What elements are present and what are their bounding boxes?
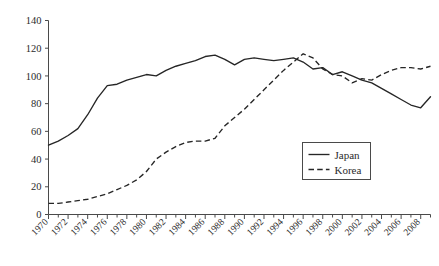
x-axis-tick-label: 1994	[264, 217, 285, 238]
x-axis-tick-label: 1998	[304, 217, 325, 238]
x-axis-tick-label: 1978	[108, 217, 129, 238]
x-axis-tick-label: 1996	[284, 217, 305, 238]
x-axis: 1970197219741976197819801982198419861988…	[29, 215, 430, 238]
x-axis-tick-label: 1970	[29, 217, 50, 238]
y-axis-tick-label: 20	[31, 181, 42, 192]
y-axis-tick-label: 40	[31, 154, 42, 165]
line-chart: 020406080100120140 197019721974197619781…	[0, 0, 439, 266]
legend-label-japan: Japan	[335, 149, 361, 161]
x-axis-tick-label: 1992	[245, 217, 266, 238]
x-axis-tick-label: 1988	[206, 217, 227, 238]
y-axis-tick-label: 120	[26, 43, 42, 54]
x-axis-tick-label: 1984	[167, 217, 188, 238]
x-axis-tick-label: 1972	[49, 217, 70, 238]
x-axis-tick-label: 2008	[402, 217, 423, 238]
y-axis-tick-label: 140	[26, 15, 42, 26]
series-line-japan	[49, 55, 431, 145]
chart-legend: JapanKorea	[303, 143, 371, 180]
x-axis-tick-label: 2006	[382, 217, 403, 238]
x-axis-tick-label: 2004	[362, 217, 383, 238]
x-axis-tick-label: 1982	[147, 217, 168, 238]
x-axis-tick-label: 1976	[88, 217, 109, 238]
y-axis-tick-label: 100	[26, 71, 42, 82]
x-axis-tick-label: 1986	[186, 217, 207, 238]
x-axis-tick-label: 2002	[343, 217, 364, 238]
y-axis: 020406080100120140	[26, 15, 49, 220]
series-line-korea	[49, 54, 431, 204]
series-lines	[49, 54, 431, 204]
x-axis-tick-label: 1980	[127, 217, 148, 238]
chart-figure: 020406080100120140 197019721974197619781…	[0, 0, 439, 266]
y-axis-tick-label: 80	[31, 98, 42, 109]
x-axis-tick-label: 1974	[69, 217, 90, 238]
x-axis-tick-label: 2000	[323, 217, 344, 238]
x-axis-tick-label: 1990	[225, 217, 246, 238]
y-axis-tick-label: 60	[31, 126, 42, 137]
legend-label-korea: Korea	[335, 164, 362, 176]
